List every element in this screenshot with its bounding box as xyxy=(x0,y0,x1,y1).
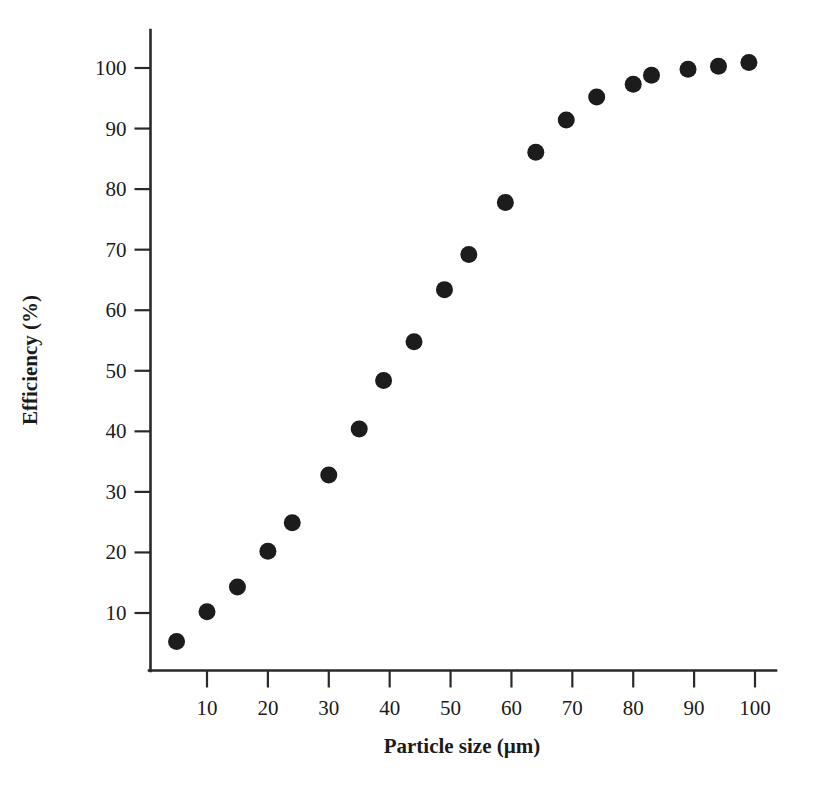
chart-figure: 102030405060708090100 102030405060708090… xyxy=(0,0,814,787)
data-point-marker xyxy=(199,603,216,620)
data-point-marker xyxy=(497,194,514,211)
x-tick-label: 100 xyxy=(739,696,771,720)
data-point-marker xyxy=(460,246,477,263)
y-tick-label: 100 xyxy=(95,56,127,80)
x-tick-label: 40 xyxy=(379,696,400,720)
y-tick-label: 70 xyxy=(106,238,127,262)
data-point-marker xyxy=(259,543,276,560)
data-point-marker xyxy=(527,144,544,161)
data-point-marker xyxy=(740,54,757,71)
x-tick-label: 10 xyxy=(197,696,218,720)
data-point-marker xyxy=(643,67,660,84)
data-point-marker xyxy=(625,76,642,93)
data-point-marker xyxy=(320,466,337,483)
x-tick-label: 70 xyxy=(562,696,583,720)
data-point-marker xyxy=(284,514,301,531)
x-tick-label: 20 xyxy=(257,696,278,720)
x-axis-title: Particle size (µm) xyxy=(384,734,541,758)
data-point-marker xyxy=(351,420,368,437)
data-point-marker xyxy=(406,333,423,350)
y-tick-label: 50 xyxy=(106,359,127,383)
data-point-series xyxy=(168,54,757,650)
data-point-marker xyxy=(588,89,605,106)
y-tick-label: 10 xyxy=(106,601,127,625)
x-tick-label: 90 xyxy=(684,696,705,720)
y-tick-label: 60 xyxy=(106,298,127,322)
y-tick-label: 40 xyxy=(106,419,127,443)
data-point-marker xyxy=(710,58,727,75)
data-point-marker xyxy=(558,112,575,129)
x-axis-ticks: 102030405060708090100 xyxy=(197,671,771,720)
data-point-marker xyxy=(229,578,246,595)
y-axis-title: Efficiency (%) xyxy=(18,295,42,425)
y-tick-label: 80 xyxy=(106,177,127,201)
x-tick-label: 60 xyxy=(501,696,522,720)
y-axis-ticks: 102030405060708090100 xyxy=(95,56,151,625)
y-tick-label: 90 xyxy=(106,117,127,141)
data-point-marker xyxy=(436,281,453,298)
data-point-marker xyxy=(375,372,392,389)
y-tick-label: 20 xyxy=(106,540,127,564)
scatter-plot: 102030405060708090100 102030405060708090… xyxy=(0,0,814,787)
data-point-marker xyxy=(680,61,697,78)
y-tick-label: 30 xyxy=(106,480,127,504)
x-tick-label: 30 xyxy=(318,696,339,720)
data-point-marker xyxy=(168,633,185,650)
x-tick-label: 50 xyxy=(440,696,461,720)
x-tick-label: 80 xyxy=(623,696,644,720)
